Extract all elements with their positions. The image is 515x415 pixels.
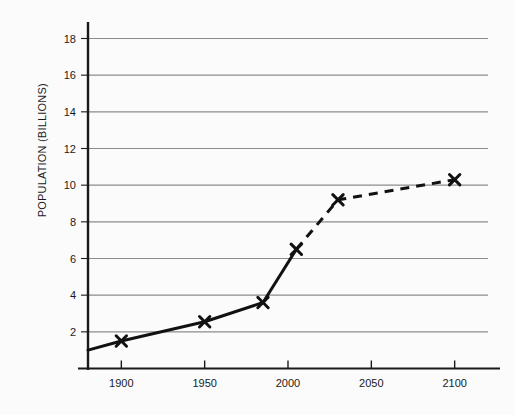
chart-background (0, 0, 515, 415)
y-tick-label-18: 18 (64, 33, 76, 45)
y-tick-label-12: 12 (64, 143, 76, 155)
chart-canvas: 24681012141618 19001950200020502100 POPU… (0, 0, 515, 415)
y-tick-label-16: 16 (64, 69, 76, 81)
x-tick-label-1900: 1900 (109, 377, 133, 389)
population-line-chart: 24681012141618 19001950200020502100 POPU… (0, 0, 515, 415)
y-tick-label-2: 2 (70, 326, 76, 338)
y-tick-label-4: 4 (70, 289, 76, 301)
x-tick-label-2000: 2000 (276, 377, 300, 389)
y-tick-label-8: 8 (70, 216, 76, 228)
y-tick-label-10: 10 (64, 179, 76, 191)
y-tick-label-6: 6 (70, 253, 76, 265)
x-tick-label-2100: 2100 (442, 377, 466, 389)
y-axis-title: POPULATION (BILLIONS) (36, 83, 48, 217)
x-tick-label-1950: 1950 (192, 377, 216, 389)
y-tick-label-14: 14 (64, 106, 76, 118)
x-tick-label-2050: 2050 (359, 377, 383, 389)
